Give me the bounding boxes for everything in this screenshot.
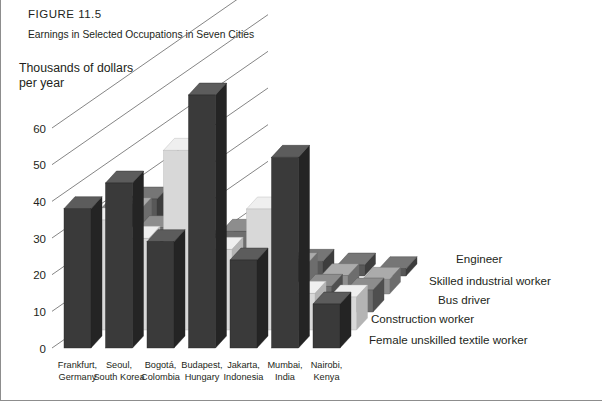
bar-front-face [147, 242, 174, 348]
bar-0-3 [189, 83, 227, 348]
bar-0-6 [313, 292, 351, 348]
y-tick-label: 10 [33, 306, 46, 318]
legend-label-1[interactable]: Skilled industrial worker [429, 274, 551, 287]
bar-front-face [64, 209, 91, 348]
bars-layer [64, 83, 417, 348]
y-tick-label: 0 [40, 343, 46, 355]
bar-front-face [189, 95, 216, 348]
category-label: Bogotá, [145, 360, 177, 370]
bar-0-2 [147, 230, 185, 348]
bar-0-1 [106, 171, 144, 348]
bar-0-0 [64, 197, 102, 348]
category-label: Budapest, [181, 360, 222, 370]
y-tick-label: 60 [33, 123, 46, 135]
legend-label-3[interactable]: Construction worker [371, 312, 474, 325]
bar-front-face [313, 304, 340, 348]
bar-side-face [133, 171, 144, 348]
bar-chart-3d: 0102030405060 Thousands of dollarsper ye… [1, 0, 602, 401]
bar-side-face [299, 145, 310, 348]
y-tick-label: 20 [33, 269, 46, 281]
category-label: South Korea [93, 372, 145, 382]
y-axis-title-line: per year [19, 76, 64, 90]
category-label: Indonesia [224, 372, 265, 382]
bar-side-face [91, 197, 102, 348]
y-tick-label: 40 [33, 196, 46, 208]
y-tick-label: 50 [33, 159, 46, 171]
category-label: Germany [59, 372, 97, 382]
bar-front-face [272, 157, 299, 348]
bar-0-4 [230, 248, 268, 348]
bar-side-face [174, 230, 185, 348]
figure-card: FIGURE 11.5 Earnings in Selected Occupat… [0, 0, 602, 401]
legend-label-2[interactable]: Bus driver [438, 293, 490, 306]
bar-side-face [257, 248, 268, 348]
bar-side-face [216, 83, 227, 348]
legend-label-0[interactable]: Engineer [456, 252, 503, 265]
category-label: Frankfurt, [58, 360, 97, 370]
bar-front-face [106, 183, 133, 348]
y-axis-title-line: Thousands of dollars [19, 61, 133, 75]
category-label: Colombia [141, 372, 181, 382]
y-axis: 0102030405060 [33, 123, 46, 355]
category-label: Hungary [185, 372, 220, 382]
bar-0-5 [272, 145, 310, 348]
y-axis-title: Thousands of dollarsper year [19, 61, 133, 90]
category-labels: Frankfurt,GermanySeoul,South KoreaBogotá… [58, 360, 342, 382]
category-label: India [275, 372, 296, 382]
category-label: Nairobi, [311, 360, 343, 370]
legend-label-4[interactable]: Female unskilled textile worker [369, 333, 528, 346]
category-label: Seoul, [106, 360, 132, 370]
category-label: Kenya [313, 372, 340, 382]
bar-front-face [230, 260, 257, 348]
category-label: Mumbai, [267, 360, 302, 370]
y-tick-label: 30 [33, 233, 46, 245]
category-label: Jakarta, [227, 360, 260, 370]
